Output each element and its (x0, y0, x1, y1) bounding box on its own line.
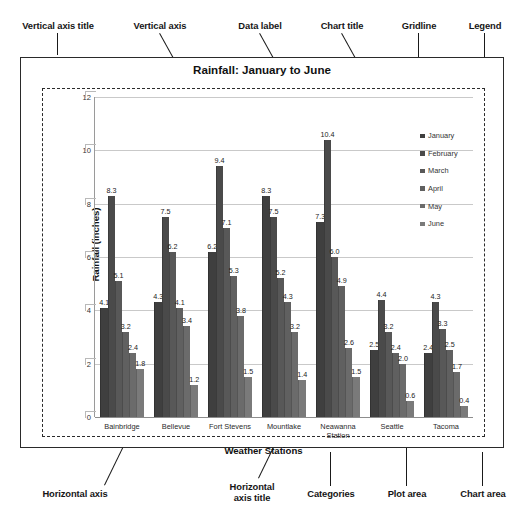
bar[interactable]: 2.5 (370, 350, 377, 417)
bar[interactable]: 3.4 (183, 326, 190, 417)
horizontal-axis-title: Weather Stations (43, 445, 484, 456)
bar[interactable]: 9.4 (216, 166, 223, 417)
bar[interactable]: 2.6 (345, 348, 352, 417)
bar[interactable]: 5.1 (115, 281, 122, 417)
annotation-label: Horizontal axis (20, 488, 130, 499)
annotation-leader-line (57, 33, 58, 55)
data-label: 5.1 (114, 271, 124, 280)
gridline (95, 417, 473, 418)
category-label: Tacoma (419, 422, 473, 440)
data-label: 2.0 (398, 354, 408, 363)
bar[interactable]: 7.1 (223, 228, 230, 417)
bar-group[interactable]: 4.18.35.13.22.41.8 (95, 97, 149, 417)
data-label: 4.9 (337, 276, 347, 285)
category-label: Fort Stevens (203, 422, 257, 440)
data-label: 1.5 (243, 367, 253, 376)
data-label: 5.2 (276, 268, 286, 277)
legend-item[interactable]: January (420, 127, 478, 145)
plot-area[interactable]: Rainfall (inches) 121086420 4.18.35.13.2… (42, 88, 485, 437)
data-label: 0.4 (459, 396, 469, 405)
bar[interactable]: 4.4 (378, 300, 385, 417)
bar-group[interactable]: 6.29.47.15.33.81.5 (203, 97, 257, 417)
bar[interactable]: 0.6 (406, 401, 413, 417)
bar[interactable]: 1.7 (453, 372, 460, 417)
data-label: 7.5 (160, 207, 170, 216)
bar[interactable]: 0.4 (460, 406, 467, 417)
data-label: 0.6 (405, 391, 415, 400)
legend-swatch-icon (420, 204, 425, 209)
data-label: 8.3 (261, 186, 271, 195)
data-label: 1.2 (189, 375, 199, 384)
legend-item[interactable]: February (420, 145, 478, 163)
legend-label: February (428, 149, 458, 158)
legend-swatch-icon (420, 222, 425, 227)
legend-swatch-icon (420, 169, 425, 174)
data-label: 4.4 (376, 290, 386, 299)
bar[interactable]: 4.3 (154, 302, 161, 417)
annotation-label: Categories (296, 488, 366, 499)
annotation-label: Plot area (374, 488, 440, 499)
annotation-leader-line (482, 452, 483, 486)
bar[interactable]: 1.5 (244, 377, 251, 417)
legend-item[interactable]: March (420, 162, 478, 180)
data-label: 1.8 (135, 359, 145, 368)
chart-area[interactable]: Rainfall: January to June Rainfall (inch… (20, 57, 504, 448)
bar[interactable]: 2.4 (424, 353, 431, 417)
legend-label: January (428, 131, 454, 140)
bar[interactable]: 8.3 (108, 196, 115, 417)
legend[interactable]: JanuaryFebruaryMarchAprilMayJune (420, 127, 478, 233)
bar-group[interactable]: 4.37.56.24.13.41.2 (149, 97, 203, 417)
annotation-label: Chart title (306, 20, 378, 31)
data-label: 3.8 (236, 306, 246, 315)
data-label: 1.7 (452, 362, 462, 371)
data-label: 10.4 (320, 130, 334, 139)
bar[interactable]: 1.2 (190, 385, 197, 417)
data-label: 7.1 (222, 218, 232, 227)
annotation-label: Chart area (448, 488, 518, 499)
bar[interactable]: 4.9 (338, 286, 345, 417)
data-label: 5.3 (229, 266, 239, 275)
data-label: 2.6 (344, 338, 354, 347)
bar-group[interactable]: 2.54.43.22.42.00.6 (365, 97, 419, 417)
legend-swatch-icon (420, 151, 425, 156)
legend-item[interactable]: April (420, 180, 478, 198)
bar[interactable]: 1.8 (136, 369, 143, 417)
bar[interactable]: 4.3 (284, 302, 291, 417)
bar[interactable]: 2.5 (446, 350, 453, 417)
bar[interactable]: 6.2 (208, 252, 215, 417)
category-label: Bainbridge (95, 422, 149, 440)
category-label: Seattle (365, 422, 419, 440)
legend-item[interactable]: June (420, 215, 478, 233)
legend-label: May (428, 202, 442, 211)
data-label: 4.1 (175, 298, 185, 307)
bar[interactable]: 7.5 (270, 217, 277, 417)
legend-label: April (428, 184, 443, 193)
annotation-label: Vertical axis (118, 20, 202, 31)
data-label: 7.5 (268, 207, 278, 216)
legend-label: June (428, 219, 444, 228)
bar-group[interactable]: 8.37.55.24.33.21.4 (257, 97, 311, 417)
bar[interactable]: 10.4 (324, 140, 331, 417)
data-label: 2.4 (391, 343, 401, 352)
legend-label: March (428, 166, 449, 175)
bar[interactable]: 1.5 (352, 377, 359, 417)
bar-series-group: 4.18.35.13.22.41.84.37.56.24.13.41.26.29… (95, 97, 473, 417)
bar[interactable]: 4.1 (100, 308, 107, 417)
bar[interactable]: 7.3 (316, 222, 323, 417)
data-label: 1.4 (297, 370, 307, 379)
legend-item[interactable]: May (420, 197, 478, 215)
data-label: 2.5 (445, 340, 455, 349)
bar-group[interactable]: 7.310.46.04.92.61.5 (311, 97, 365, 417)
bar[interactable]: 1.4 (298, 380, 305, 417)
category-label: Mountlake (257, 422, 311, 440)
data-label: 4.3 (430, 292, 440, 301)
data-label: 2.4 (128, 343, 138, 352)
bar[interactable]: 8.3 (262, 196, 269, 417)
bar[interactable]: 5.3 (230, 276, 237, 417)
data-label: 1.5 (351, 367, 361, 376)
bar[interactable]: 6.2 (169, 252, 176, 417)
annotation-leader-line (330, 452, 331, 486)
category-labels: BainbridgeBellevueFort StevensMountlakeN… (95, 422, 473, 440)
data-label: 8.3 (106, 186, 116, 195)
annotation-label: Data label (224, 20, 296, 31)
